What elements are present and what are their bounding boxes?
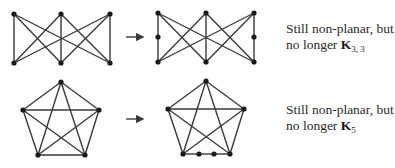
graph-vertex	[203, 10, 208, 15]
graph-edge	[38, 82, 61, 155]
graph-vertex	[241, 106, 246, 111]
graph-edge	[38, 110, 99, 155]
graph-vertex	[107, 60, 112, 65]
caption-prefix: no longer	[286, 118, 341, 133]
k5-original-graph	[20, 79, 101, 157]
graph-vertex	[155, 59, 160, 64]
k5-caption: Still non-planar, but no longer K5	[286, 102, 394, 134]
graph-vertex	[211, 151, 216, 156]
caption-line-2: no longer K5	[286, 118, 394, 134]
graph-vertex	[251, 10, 256, 15]
graph-edge	[206, 81, 230, 154]
graph-edge	[230, 109, 244, 154]
graph-vertex	[11, 60, 16, 65]
caption-line-1: Still non-planar, but	[286, 102, 394, 118]
caption-line-2: no longer K3, 3	[286, 37, 394, 53]
graph-vertex	[107, 11, 112, 16]
graph-vertex	[251, 59, 256, 64]
graph-symbol: K	[341, 37, 352, 52]
graph-edge	[85, 110, 99, 155]
graph-vertex	[196, 151, 201, 156]
graph-edge	[61, 82, 99, 110]
graph-symbol: K	[341, 118, 352, 133]
graph-vertex	[96, 107, 101, 112]
k33-subdivided-graph	[155, 10, 256, 64]
graph-subscript: 3, 3	[351, 44, 365, 54]
caption-prefix: no longer	[286, 37, 341, 52]
graph-edge	[23, 110, 85, 155]
graph-edge	[183, 109, 244, 154]
graph-vertex	[82, 152, 87, 157]
graph-edge	[61, 82, 85, 155]
graph-vertex	[203, 78, 208, 83]
graph-vertex	[20, 107, 25, 112]
graph-vertex	[155, 10, 160, 15]
graph-vertex	[227, 151, 232, 156]
graph-edge	[23, 82, 61, 110]
graph-vertex	[165, 106, 170, 111]
k5-subdivided-graph	[165, 78, 246, 156]
graph-vertex	[58, 11, 63, 16]
graph-vertex	[11, 11, 16, 16]
graph-edge	[168, 109, 230, 154]
graph-edge	[168, 109, 183, 154]
graph-edge	[168, 81, 206, 109]
graph-vertex	[58, 79, 63, 84]
graph-edge	[183, 81, 206, 154]
graph-vertex	[58, 60, 63, 65]
graph-edge	[23, 110, 38, 155]
k33-original-graph	[11, 11, 112, 65]
graph-vertex	[251, 34, 256, 39]
k33-caption: Still non-planar, but no longer K3, 3	[286, 21, 394, 53]
graph-subscript: 5	[351, 125, 356, 135]
graph-vertex	[180, 151, 185, 156]
graph-vertex	[35, 152, 40, 157]
caption-line-1: Still non-planar, but	[286, 21, 394, 37]
graph-edge	[206, 81, 244, 109]
graph-vertex	[203, 59, 208, 64]
graph-vertex	[155, 34, 160, 39]
